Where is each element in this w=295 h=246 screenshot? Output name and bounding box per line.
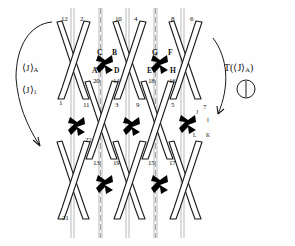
strand-label-6: 6 <box>190 16 193 23</box>
crossing-letter-A: A <box>92 67 97 75</box>
crossing-letter-L: L <box>193 133 196 139</box>
transform-suffix: ) <box>250 62 253 73</box>
right-curved-arrow <box>213 38 226 114</box>
strand-label-19: 19 <box>113 160 120 167</box>
crossing-letter-H: H <box>170 67 176 75</box>
crossing-letter-E: E <box>147 67 152 75</box>
crossing-letter-K: K <box>206 133 210 139</box>
crossing-letter-I: I <box>207 118 209 124</box>
annotation-subscript: 1 <box>34 88 37 95</box>
annotation-subscript: A <box>34 66 39 73</box>
strand-label-10: 10 <box>115 16 122 23</box>
strand-label-2: 2 <box>80 16 83 23</box>
arrows-layer <box>0 0 295 246</box>
strand-label-3: 3 <box>115 102 118 109</box>
crossing-letter-J: J <box>196 110 198 116</box>
crossing-letter-G: G <box>152 49 158 57</box>
strand-label-20: 20 <box>93 78 100 85</box>
left-arrow-head <box>33 137 40 146</box>
strand-label-15: 15 <box>148 160 155 167</box>
strand-label-17: 17 <box>169 160 176 167</box>
strand-label-4: 4 <box>134 16 137 23</box>
strand-label-1: 1 <box>59 100 62 107</box>
strand-label-14: 14 <box>113 78 120 85</box>
strand-label-9: 9 <box>136 102 139 109</box>
strand-label-22: 22 <box>85 137 92 144</box>
annotation-left-upper: ⟨J⟩A <box>22 62 38 73</box>
annotation-left-lower: ⟨J⟩1 <box>22 84 37 95</box>
crossing-letter-F: F <box>168 49 172 57</box>
strand-label-11: 11 <box>83 102 89 109</box>
strand-label-21: 21 <box>62 215 69 222</box>
crossing-letter-C: C <box>97 49 102 57</box>
strand-label-16: 16 <box>169 78 176 85</box>
strand-label-13: 13 <box>93 160 100 167</box>
figure-canvas: 12 2 10 4 8 6 C B A D G F E H J I L K 20… <box>0 0 295 246</box>
circle-with-vertical-bar-icon <box>237 80 255 98</box>
strand-label-18: 18 <box>148 78 155 85</box>
strand-label-7: 7 <box>203 104 206 111</box>
strand-label-8: 8 <box>171 16 174 23</box>
annotation-right-transform: T(⟨J⟩A) <box>224 62 253 73</box>
strand-label-12: 12 <box>61 16 68 23</box>
crossing-letter-D: D <box>114 67 119 75</box>
strand-label-5: 5 <box>171 102 174 109</box>
crossing-letter-B: B <box>112 49 117 57</box>
